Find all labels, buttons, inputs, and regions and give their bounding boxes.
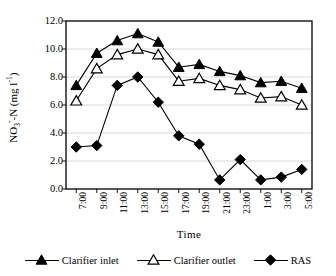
data-point-marker bbox=[148, 255, 159, 264]
legend-glyph bbox=[35, 254, 48, 266]
data-point-marker bbox=[297, 164, 307, 174]
chart-legend: Clarifier inletClarifier outletRAS bbox=[0, 248, 336, 272]
data-point-marker bbox=[91, 63, 102, 72]
data-point-marker bbox=[153, 37, 164, 46]
legend-marker-filled-diamond-icon bbox=[254, 254, 288, 266]
data-point-marker bbox=[276, 172, 286, 182]
data-point-marker bbox=[194, 59, 205, 68]
data-point-marker bbox=[296, 83, 307, 92]
data-point-marker bbox=[36, 255, 47, 264]
x-axis-title: Time bbox=[66, 228, 312, 240]
data-point-marker bbox=[296, 100, 307, 109]
data-point-marker bbox=[71, 80, 82, 89]
data-point-marker bbox=[174, 131, 184, 141]
legend-glyph bbox=[147, 254, 160, 266]
x-tick-label: 21:00 bbox=[213, 192, 227, 232]
data-point-marker bbox=[71, 96, 82, 105]
legend-item: RAS bbox=[254, 254, 311, 266]
data-point-marker bbox=[194, 139, 204, 149]
legend-marker-filled-triangle-icon bbox=[25, 254, 59, 266]
legend-item: Clarifier outlet bbox=[137, 254, 236, 266]
x-tick-label: 19:00 bbox=[192, 192, 206, 232]
series-clarifier-inlet bbox=[71, 28, 307, 92]
data-point-marker bbox=[194, 73, 205, 82]
series-line bbox=[76, 77, 302, 180]
data-point-marker bbox=[265, 255, 275, 265]
data-point-marker bbox=[132, 28, 143, 37]
data-point-marker bbox=[71, 142, 81, 152]
data-point-marker bbox=[276, 76, 287, 85]
x-tick-label: 17:00 bbox=[172, 192, 186, 232]
legend-item: Clarifier inlet bbox=[25, 254, 119, 266]
legend-marker-open-triangle-icon bbox=[137, 254, 171, 266]
legend-label: RAS bbox=[290, 255, 311, 266]
x-tick-label: 13:00 bbox=[131, 192, 145, 232]
series-clarifier-outlet bbox=[71, 44, 307, 109]
data-point-marker bbox=[276, 91, 287, 100]
chart-figure: NO3--N (mg l-1) 12.010.08.06.04.02.00.0 … bbox=[0, 0, 336, 276]
data-point-marker bbox=[214, 80, 225, 89]
x-tick-label: 23:00 bbox=[233, 192, 247, 232]
legend-label: Clarifier inlet bbox=[61, 255, 119, 266]
data-point-marker bbox=[112, 80, 122, 90]
x-tick-label: 15:00 bbox=[151, 192, 165, 232]
data-point-marker bbox=[132, 44, 143, 53]
legend-label: Clarifier outlet bbox=[173, 255, 236, 266]
series-ras bbox=[71, 72, 307, 185]
legend-glyph bbox=[264, 254, 277, 266]
x-tick-label: 5:00 bbox=[295, 192, 309, 232]
x-tick-label: 11:00 bbox=[110, 192, 124, 232]
x-tick-label: 7:00 bbox=[69, 192, 83, 232]
x-tick-label: 9:00 bbox=[90, 192, 104, 232]
data-point-marker bbox=[214, 66, 225, 75]
data-point-marker bbox=[112, 35, 123, 44]
data-point-marker bbox=[92, 140, 102, 150]
data-point-marker bbox=[91, 48, 102, 57]
x-tick-label: 3:00 bbox=[274, 192, 288, 232]
x-tick-label: 1:00 bbox=[254, 192, 268, 232]
